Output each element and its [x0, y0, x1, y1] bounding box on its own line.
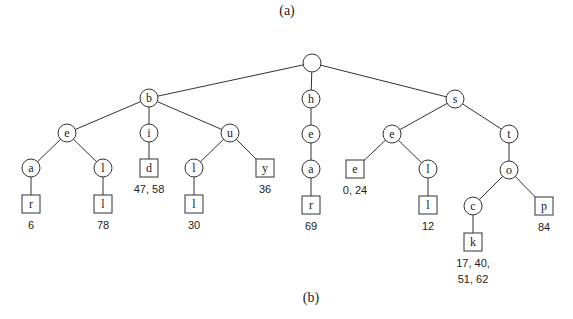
trie-node-b-u-l: l	[185, 159, 203, 177]
position-list: 17, 40,	[456, 257, 490, 269]
node-label: e	[308, 127, 313, 141]
trie-node-h: h	[302, 90, 320, 108]
trie-node-s-t-o: o	[500, 161, 518, 179]
node-label: a	[308, 162, 314, 176]
trie-node-b-e: e	[58, 124, 76, 142]
leaf-node-b-u-l-l: l30	[185, 195, 203, 231]
position-list: 30	[188, 219, 200, 231]
tree-edge	[455, 99, 509, 134]
tree-edge	[67, 98, 149, 133]
trie-node-b: b	[140, 89, 158, 107]
node-label: c	[470, 199, 475, 213]
node-label: a	[28, 161, 34, 175]
trie-node-h-e-a: a	[302, 160, 320, 178]
node-label: e	[352, 162, 357, 176]
node-label: e	[64, 126, 69, 140]
trie-node-b-e-l: l	[94, 159, 112, 177]
trie-node-s-e: e	[383, 125, 401, 143]
circle-node-shape	[303, 54, 321, 72]
trie-diagram: (a) bhseiuald47, 58ly36r6l78l30ear69ete0…	[0, 0, 573, 319]
leaf-node-s-t-o-p: p84	[535, 197, 553, 233]
position-list: 78	[97, 219, 109, 231]
trie-node-b-e-a: a	[22, 159, 40, 177]
tree-nodes: bhseiuald47, 58ly36r6l78l30ear69ete0, 24…	[22, 54, 553, 285]
leaf-node-h-e-a-r: r69	[302, 196, 320, 232]
trie-node-s-t: t	[500, 125, 518, 143]
tree-edges	[31, 63, 544, 242]
node-label: s	[453, 92, 458, 106]
position-list: 84	[538, 221, 550, 233]
trie-node-root	[303, 54, 321, 72]
node-label: b	[146, 91, 152, 105]
trie-node-s-t-o-c: c	[464, 197, 482, 215]
node-label: o	[506, 163, 512, 177]
tree-edge	[392, 99, 455, 134]
node-label: u	[227, 126, 233, 140]
leaf-node-b-u-y: y36	[256, 159, 274, 195]
leaf-node-s-t-o-c-k: k17, 40,51, 62	[456, 233, 490, 285]
node-label: d	[146, 161, 152, 175]
tree-edge	[149, 98, 230, 133]
node-label: e	[389, 127, 394, 141]
caption-a: (a)	[279, 3, 295, 19]
position-list: 47, 58	[134, 183, 165, 195]
position-list: 51, 62	[458, 273, 489, 285]
position-list: 12	[422, 220, 434, 232]
trie-node-s-e-l: l	[419, 160, 437, 178]
node-label: r	[29, 197, 33, 211]
leaf-node-s-e-l-l: l12	[419, 196, 437, 232]
node-label: k	[470, 235, 476, 249]
position-list: 6	[28, 219, 34, 231]
position-list: 36	[259, 183, 271, 195]
position-list: 0, 24	[343, 184, 367, 196]
leaf-node-b-i-d: d47, 58	[134, 159, 165, 195]
trie-node-h-e: e	[302, 125, 320, 143]
tree-edge	[312, 63, 455, 99]
tree-edge	[149, 63, 312, 98]
leaf-node-b-e-a-r: r6	[22, 195, 40, 231]
caption-b: (b)	[303, 290, 320, 306]
node-label: y	[262, 161, 268, 175]
position-list: 69	[305, 220, 317, 232]
node-label: h	[308, 92, 314, 106]
node-label: r	[309, 198, 313, 212]
leaf-node-s-e-e: e0, 24	[343, 160, 367, 196]
node-label: p	[541, 199, 547, 213]
trie-node-s: s	[446, 90, 464, 108]
leaf-node-b-e-l-l: l78	[94, 195, 112, 231]
trie-node-b-i: i	[140, 124, 158, 142]
trie-node-b-u: u	[221, 124, 239, 142]
